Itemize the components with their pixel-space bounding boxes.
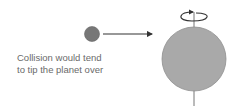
caption-line-2: to tip the planet over xyxy=(17,64,103,76)
caption: Collision would tend to tip the planet o… xyxy=(17,52,103,76)
planet xyxy=(162,27,226,91)
impactor-sphere xyxy=(85,27,100,42)
caption-line-1: Collision would tend xyxy=(17,52,103,64)
